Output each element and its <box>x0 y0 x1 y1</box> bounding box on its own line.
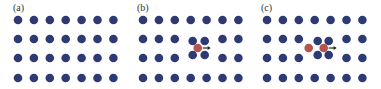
lattice-atom <box>30 35 39 44</box>
lattice-atom <box>14 54 23 63</box>
lattice-atom <box>295 16 304 25</box>
lattice-atom <box>155 35 164 44</box>
lattice-atom <box>310 16 319 25</box>
relaxed-neighbor-atom <box>313 51 322 60</box>
lattice-atom <box>279 35 288 44</box>
lattice-atom <box>234 74 243 83</box>
panel-label-a: (a) <box>13 2 24 14</box>
lattice-atom <box>30 74 39 83</box>
lattice-atom <box>93 74 102 83</box>
lattice-atom <box>263 35 272 44</box>
lattice-atom <box>218 16 227 25</box>
lattice-atom <box>326 74 335 83</box>
interstitial-atom <box>193 44 202 53</box>
lattice-atom <box>263 74 272 83</box>
lattice-atom <box>93 54 102 63</box>
relaxed-neighbor-atom <box>188 37 197 46</box>
lattice-atom <box>46 74 55 83</box>
lattice-atom <box>77 54 86 63</box>
relaxed-neighbor-atom <box>313 37 322 46</box>
lattice-atom <box>109 74 118 83</box>
lattice-atom <box>171 74 180 83</box>
lattice-atom <box>263 54 272 63</box>
lattice-atom <box>279 74 288 83</box>
lattice-atom <box>109 54 118 63</box>
relaxed-neighbor-atom <box>188 51 197 60</box>
lattice-atom <box>93 35 102 44</box>
lattice-atom <box>358 74 367 83</box>
lattice-atom <box>14 74 23 83</box>
lattice-atom <box>61 16 70 25</box>
lattice-atom <box>61 54 70 63</box>
lattice-atom <box>342 54 351 63</box>
lattice-atom <box>46 35 55 44</box>
panel-label-c: (c) <box>261 2 272 14</box>
lattice-atom <box>310 74 319 83</box>
lattice-atom <box>139 74 148 83</box>
lattice-atom <box>279 16 288 25</box>
interstitial-atom <box>319 44 328 53</box>
lattice-atom <box>155 16 164 25</box>
lattice-atom <box>30 16 39 25</box>
lattice-atom <box>263 16 272 25</box>
lattice-atom <box>218 35 227 44</box>
lattice-atom <box>61 74 70 83</box>
lattice-atom <box>171 16 180 25</box>
lattice-atom <box>155 54 164 63</box>
lattice-atom <box>279 54 288 63</box>
lattice-atom <box>186 16 195 25</box>
lattice-atom <box>77 16 86 25</box>
lattice-atom <box>358 16 367 25</box>
lattice-atom <box>234 35 243 44</box>
lattice-atom <box>14 35 23 44</box>
relaxed-neighbor-atom <box>324 51 333 60</box>
lattice-atom <box>202 74 211 83</box>
lattice-atom <box>234 16 243 25</box>
lattice-atom <box>139 35 148 44</box>
lattice-atom <box>14 16 23 25</box>
lattice-atom <box>171 35 180 44</box>
lattice-atom <box>218 74 227 83</box>
lattice-atom <box>93 16 102 25</box>
lattice-atom <box>77 74 86 83</box>
lattice-atom <box>295 54 304 63</box>
lattice-atom <box>295 74 304 83</box>
lattice-atom <box>342 35 351 44</box>
lattice-atom <box>77 35 86 44</box>
lattice-defect-figure: (a) (b) (c) <box>0 0 381 89</box>
lattice-atom <box>186 74 195 83</box>
lattice-atom <box>139 16 148 25</box>
lattice-atom <box>326 16 335 25</box>
lattice-atom <box>46 16 55 25</box>
lattice-atom <box>295 35 304 44</box>
lattice-atom <box>139 54 148 63</box>
lattice-atom <box>155 74 164 83</box>
interstitial-atom <box>304 44 313 53</box>
lattice-atom <box>358 54 367 63</box>
relaxed-neighbor-atom <box>200 37 209 46</box>
lattice-atom <box>358 35 367 44</box>
lattice-atom <box>46 54 55 63</box>
lattice-atom <box>218 54 227 63</box>
relaxed-neighbor-atom <box>200 51 209 60</box>
lattice-atom <box>61 35 70 44</box>
lattice-atom <box>342 16 351 25</box>
lattice-atom <box>342 74 351 83</box>
panel-label-b: (b) <box>137 2 149 14</box>
relaxed-neighbor-atom <box>324 37 333 46</box>
lattice-atom <box>171 54 180 63</box>
lattice-atom <box>109 35 118 44</box>
lattice-atom <box>30 54 39 63</box>
lattice-atom <box>109 16 118 25</box>
lattice-atom <box>234 54 243 63</box>
lattice-atom <box>202 16 211 25</box>
